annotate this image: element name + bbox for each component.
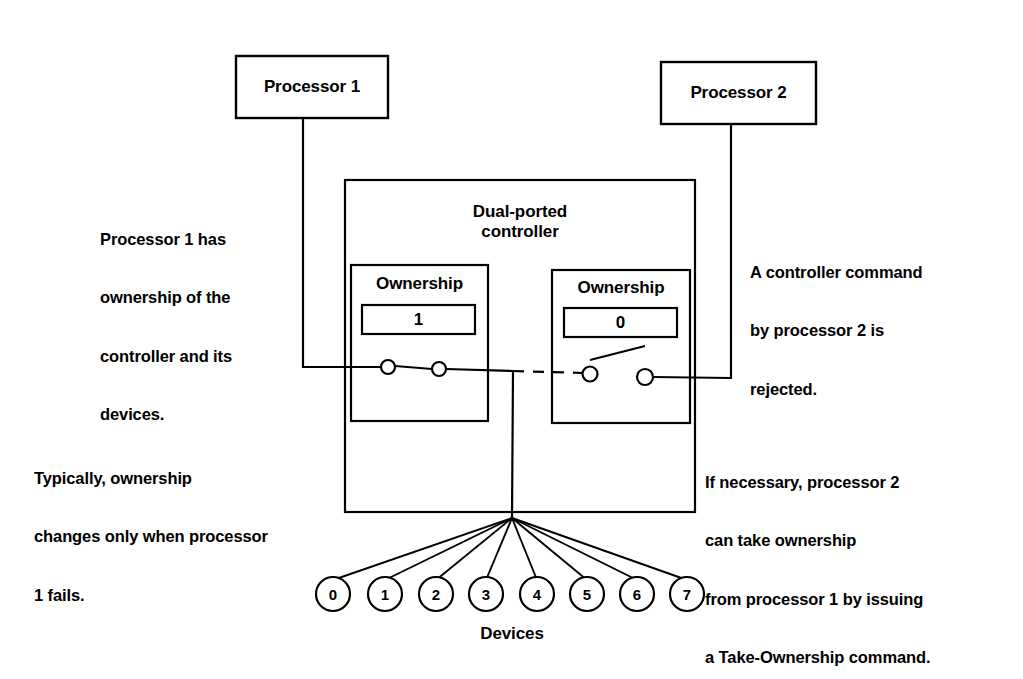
note-take-ownership-line-3: from processor 1 by issuing <box>705 590 1005 609</box>
port-left-switch-contact-b <box>432 362 446 376</box>
device-fanout-lines <box>333 518 687 580</box>
note-proc1-ownership-line-3: controller and its <box>100 347 320 366</box>
device-label-5: 5 <box>570 586 604 603</box>
device-bus-trunk <box>512 371 513 518</box>
note-take-ownership-line-1: If necessary, processor 2 <box>705 473 1005 492</box>
note-ownership-change-line-1: Typically, ownership <box>34 469 344 488</box>
device-label-0: 0 <box>316 586 350 603</box>
note-proc1-ownership-line-1: Processor 1 has <box>100 230 320 249</box>
diagram-canvas: Processor 1 Processor 2 Dual-ported cont… <box>0 0 1023 679</box>
note-proc2-rejected-line-2: by processor 2 is <box>750 321 1010 340</box>
port-right-title: Ownership <box>552 278 690 298</box>
port-right-switch-contact-b <box>637 369 653 385</box>
note-proc1-ownership: Processor 1 has ownership of the control… <box>100 191 320 464</box>
device-label-3: 3 <box>469 586 503 603</box>
port-right-switch-contact-a <box>583 367 598 382</box>
device-label-1: 1 <box>368 586 402 603</box>
dual-ported-controller-title-line2: controller <box>345 222 695 242</box>
note-ownership-change: Typically, ownership changes only when p… <box>34 430 344 644</box>
dual-ported-controller-title-line1: Dual-ported <box>345 202 695 222</box>
device-label-4: 4 <box>520 586 554 603</box>
note-proc1-ownership-line-4: devices. <box>100 405 320 424</box>
devices-caption: Devices <box>412 624 612 644</box>
device-label-7: 7 <box>670 586 704 603</box>
note-take-ownership-line-4: a Take-Ownership command. <box>705 648 1005 667</box>
device-label-6: 6 <box>620 586 654 603</box>
note-proc2-rejected-line-3: rejected. <box>750 380 1010 399</box>
note-take-ownership-line-2: can take ownership <box>705 531 1005 550</box>
device-label-2: 2 <box>419 586 453 603</box>
note-ownership-change-line-3: 1 fails. <box>34 586 344 605</box>
port-left-switch-contact-a <box>381 360 395 374</box>
note-proc2-rejected: A controller command by processor 2 is r… <box>750 224 1010 438</box>
processor-2-label: Processor 2 <box>661 83 816 103</box>
note-proc2-rejected-line-1: A controller command <box>750 263 1010 282</box>
port-left-title: Ownership <box>351 274 488 294</box>
note-take-ownership: If necessary, processor 2 can take owner… <box>705 434 1005 679</box>
port-left-value: 1 <box>362 310 475 330</box>
processor-1-label: Processor 1 <box>236 77 388 97</box>
port-right-value: 0 <box>564 313 677 333</box>
note-ownership-change-line-2: changes only when processor <box>34 527 344 546</box>
note-proc1-ownership-line-2: ownership of the <box>100 288 320 307</box>
